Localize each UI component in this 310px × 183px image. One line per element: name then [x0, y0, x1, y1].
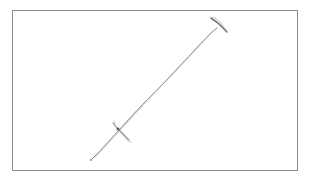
sword-sketch: [0, 0, 310, 183]
sword-crossguard: [113, 123, 129, 140]
sword-grip-knot: [117, 128, 120, 131]
sword-blade-shading: [95, 32, 212, 157]
sword-pommel: [211, 18, 227, 32]
sword-tip: [90, 159, 92, 161]
